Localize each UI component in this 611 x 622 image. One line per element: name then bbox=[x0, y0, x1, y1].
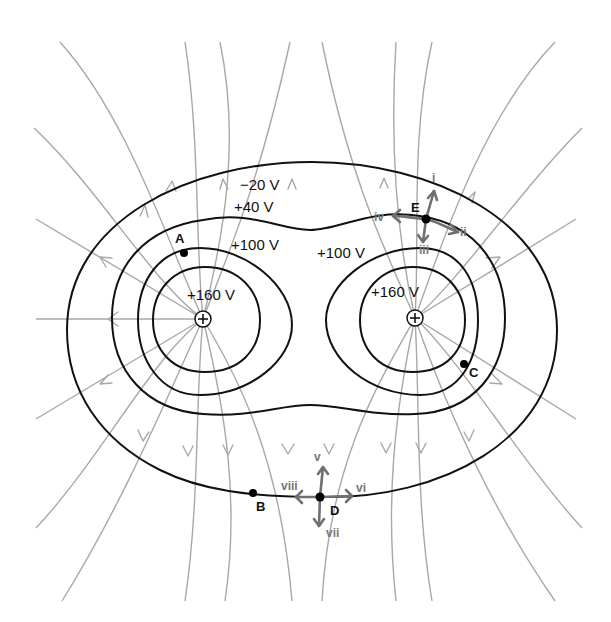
svg-text:C: C bbox=[469, 365, 479, 380]
label-minus20v: −20 V bbox=[240, 176, 280, 193]
label-viii: viii bbox=[281, 479, 298, 493]
equipotential-plus100-right bbox=[326, 248, 478, 395]
label-ii: ii bbox=[460, 225, 467, 239]
svg-text:A: A bbox=[175, 231, 185, 246]
label-vi: vi bbox=[356, 481, 366, 495]
svg-text:D: D bbox=[330, 503, 339, 518]
point-d: D v vi vii viii bbox=[281, 450, 366, 540]
svg-text:B: B bbox=[256, 499, 265, 514]
charge-left bbox=[195, 311, 211, 327]
label-iv: iv bbox=[374, 210, 384, 224]
label-plus160v-right: +160 V bbox=[371, 283, 419, 300]
label-plus100v-right: +100 V bbox=[317, 244, 365, 261]
svg-text:E: E bbox=[411, 200, 420, 215]
point-b: B bbox=[249, 489, 265, 514]
field-lines bbox=[34, 42, 582, 601]
equipotentials bbox=[67, 162, 557, 497]
label-plus160v-left: +160 V bbox=[187, 286, 235, 303]
vector-vi bbox=[320, 496, 352, 497]
label-i: i bbox=[432, 171, 435, 185]
label-vii: vii bbox=[326, 526, 339, 540]
point-a: A bbox=[175, 231, 188, 257]
field-diagram: −20 V +40 V +100 V +100 V +160 V +160 V … bbox=[0, 0, 611, 622]
label-plus40v: +40 V bbox=[234, 198, 274, 215]
charge-right bbox=[407, 310, 423, 326]
label-v: v bbox=[314, 450, 321, 464]
label-plus100v-left: +100 V bbox=[231, 236, 279, 253]
label-iii: iii bbox=[419, 243, 429, 257]
equipotential-minus20 bbox=[67, 162, 557, 497]
